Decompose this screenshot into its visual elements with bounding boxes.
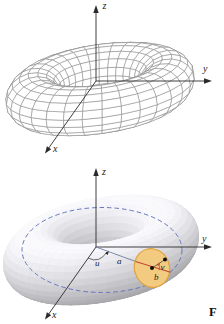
z-axis-arrowhead xyxy=(93,5,98,13)
wireframe-torus-figure: z y x xyxy=(0,0,224,162)
b-length-label: b xyxy=(154,272,159,282)
x-axis-arrowhead xyxy=(45,146,51,153)
a-length-label: a xyxy=(117,256,122,266)
z-axis-label: z xyxy=(101,166,106,177)
figure-caption-fragment: F xyxy=(209,305,217,319)
disc-center-point xyxy=(150,266,154,270)
y-axis-arrowhead xyxy=(204,78,212,83)
v-angle-label: v xyxy=(161,262,165,272)
z-axis-arrowhead xyxy=(93,168,98,176)
z-axis-label: z xyxy=(102,0,107,11)
wireframe-torus-mesh xyxy=(6,42,194,135)
y-axis-label: y xyxy=(202,63,208,74)
surface-point xyxy=(163,258,167,262)
x-axis-label: x xyxy=(51,309,57,320)
solid-torus-figure: z y x u a b v F xyxy=(0,162,224,324)
x-axis-arrowhead xyxy=(45,312,51,319)
u-angle-label: u xyxy=(95,258,100,268)
y-axis-label: y xyxy=(201,233,207,244)
textbook-torus-figure: z y x z y x u xyxy=(0,0,224,324)
y-axis-arrowhead xyxy=(204,244,212,249)
x-axis-label: x xyxy=(52,143,58,154)
solid-torus-mesh xyxy=(4,195,199,305)
